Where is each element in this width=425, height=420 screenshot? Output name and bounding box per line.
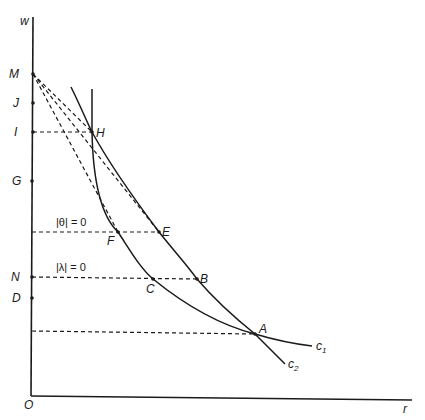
point-G (30, 179, 34, 183)
point-F (116, 230, 120, 234)
point-C (151, 277, 155, 281)
label-A: A (258, 322, 267, 336)
theta-annotation: |θ| = 0 (56, 216, 87, 228)
label-F: F (107, 234, 115, 248)
point-E (157, 230, 161, 234)
ray-M-H (33, 74, 92, 132)
label-J: J (12, 96, 20, 110)
lambda-annotation: |λ| = 0 (56, 261, 86, 273)
label-D: D (12, 291, 21, 305)
label-H: H (96, 126, 105, 140)
label-E: E (162, 225, 171, 239)
dash-to-A (32, 331, 255, 334)
point-B (195, 277, 199, 281)
point-A (253, 332, 257, 336)
ray-M-E (33, 74, 159, 232)
label-c1: c1 (316, 339, 326, 355)
label-C: C (146, 282, 155, 296)
label-B: B (200, 272, 208, 286)
origin-label: O (24, 398, 33, 412)
point-I (31, 130, 35, 134)
point-D (30, 296, 34, 300)
economics-diagram: w r O M J I G N D H F E C B A |θ| = 0 |λ… (0, 0, 425, 420)
label-N: N (11, 270, 20, 284)
point-J (31, 101, 35, 105)
label-M: M (9, 67, 19, 81)
point-H (90, 130, 94, 134)
point-M (31, 72, 35, 76)
label-I: I (14, 125, 18, 139)
label-G: G (12, 174, 21, 188)
dash-N-C-B (32, 277, 197, 279)
y-axis-label: w (20, 14, 30, 28)
x-axis-label: r (403, 402, 408, 416)
curve-c1 (92, 89, 312, 346)
label-c2: c2 (288, 357, 299, 373)
x-axis (31, 396, 412, 400)
point-N (30, 275, 34, 279)
